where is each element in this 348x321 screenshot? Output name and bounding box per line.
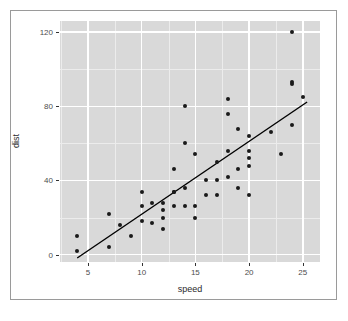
data-point xyxy=(215,160,219,164)
x-tick-label: 20 xyxy=(245,268,254,277)
data-point xyxy=(269,130,273,134)
data-point xyxy=(161,201,165,205)
x-tick-label: 15 xyxy=(191,268,200,277)
x-tick-label: 25 xyxy=(298,268,307,277)
data-point xyxy=(183,186,187,190)
plot-figure: 04080120 510152025 speed dist xyxy=(0,0,348,321)
data-point xyxy=(226,97,230,101)
data-point xyxy=(301,95,305,99)
data-point xyxy=(247,164,251,168)
data-point xyxy=(183,104,187,108)
data-point xyxy=(140,219,144,223)
data-point xyxy=(161,227,165,231)
y-tick-label: 80 xyxy=(44,102,53,111)
y-tick-label: 40 xyxy=(44,176,53,185)
data-point xyxy=(236,127,240,131)
x-tick-mark xyxy=(142,263,143,266)
data-point xyxy=(226,149,230,153)
y-axis-label: dist xyxy=(11,134,21,148)
y-tick-mark xyxy=(56,255,59,256)
data-point xyxy=(247,149,251,153)
regression-line xyxy=(60,21,320,262)
data-point xyxy=(129,234,133,238)
y-tick-mark xyxy=(56,180,59,181)
x-tick-label: 10 xyxy=(137,268,146,277)
y-tick-mark xyxy=(56,106,59,107)
data-point xyxy=(161,216,165,220)
data-point xyxy=(226,112,230,116)
x-tick-label: 5 xyxy=(86,268,90,277)
plot-panel xyxy=(60,21,320,262)
data-point xyxy=(140,190,144,194)
x-tick-mark xyxy=(303,263,304,266)
data-point xyxy=(226,175,230,179)
x-tick-mark xyxy=(249,263,250,266)
x-axis-label: speed xyxy=(60,284,320,294)
data-point xyxy=(172,190,176,194)
y-tick-label: 120 xyxy=(40,28,53,37)
y-tick-mark xyxy=(56,32,59,33)
plot-area: 04080120 510152025 speed dist xyxy=(0,0,348,321)
data-point xyxy=(193,216,197,220)
x-tick-mark xyxy=(195,263,196,266)
data-point xyxy=(247,134,251,138)
y-tick-label: 0 xyxy=(49,250,53,259)
x-tick-mark xyxy=(88,263,89,266)
data-point xyxy=(290,123,294,127)
